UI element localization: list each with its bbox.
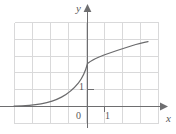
x-tick-label-one: 1 [105, 111, 110, 121]
y-tick-label-one: 1 [79, 82, 84, 92]
x-axis-label: x [166, 113, 171, 124]
plot-curve [14, 42, 148, 107]
x-axis-arrow-icon [160, 103, 168, 111]
curve-right-branch [88, 42, 149, 64]
origin-label: 0 [76, 111, 81, 121]
y-axis-arrow-icon [84, 4, 92, 12]
x-axis [0, 103, 168, 111]
tick-marks [88, 90, 105, 113]
graph-figure: y x 0 1 1 [0, 0, 176, 134]
graph-canvas [0, 0, 176, 134]
y-axis-label: y [76, 3, 81, 14]
grid-lines [15, 23, 159, 124]
